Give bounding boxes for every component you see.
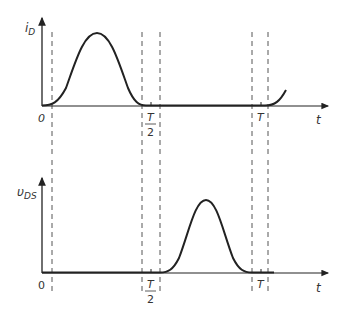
top-y-label: iD [25,21,35,37]
waveform-svg: iD t 0 T 2 T υDS t 0 T 2 T [0,0,343,317]
top-origin-label: 0 [38,112,45,125]
waveform-diagram: iD t 0 T 2 T υDS t 0 T 2 T [0,0,343,317]
top-x-label: t [316,113,322,127]
bottom-origin-label: 0 [38,279,45,292]
bottom-x-label: t [316,281,322,295]
bottom-y-label: υDS [17,185,37,201]
vds-curve [42,200,274,273]
top-plot-id: iD t 0 T 2 T [25,18,328,139]
top-half-num: T [147,111,155,124]
top-period-label: T [257,111,265,124]
id-curve [42,33,286,106]
bottom-half-num: T [147,278,155,291]
bottom-half-den: 2 [147,293,154,306]
dashed-guides [52,32,268,295]
bottom-period-label: T [257,278,265,291]
bottom-plot-vds: υDS t 0 T 2 T [17,178,328,306]
top-half-den: 2 [147,126,154,139]
